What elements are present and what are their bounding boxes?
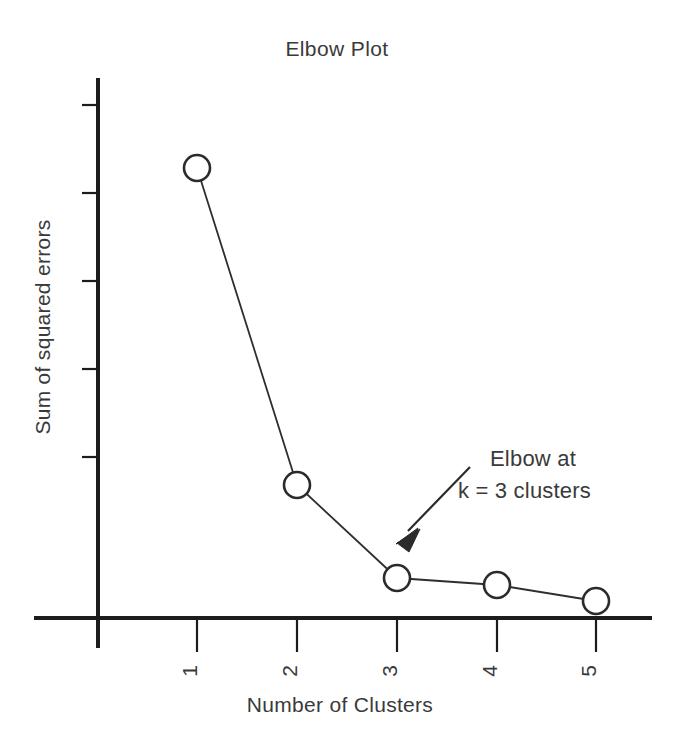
x-tick-label-4: 4 — [478, 665, 501, 677]
elbow-annotation-text: Elbow at k = 3 clusters — [458, 446, 591, 503]
chart-canvas: Elbow Plot 1 2 3 4 5 — [0, 0, 674, 739]
data-point-k2 — [284, 472, 310, 498]
arrow-head-fill-icon — [397, 529, 420, 552]
x-axis-tick-labels: 1 2 3 4 5 — [178, 665, 600, 677]
data-point-markers — [184, 155, 609, 614]
annotation-line-2: k = 3 clusters — [458, 478, 591, 503]
x-tick-label-2: 2 — [278, 665, 301, 677]
annotation-line-1: Elbow at — [490, 446, 576, 471]
elbow-plot-figure: Elbow Plot 1 2 3 4 5 — [0, 0, 674, 739]
data-point-k4 — [484, 572, 510, 598]
data-point-k5 — [583, 588, 609, 614]
x-axis-title: Number of Clusters — [247, 693, 433, 716]
x-tick-label-5: 5 — [577, 665, 600, 677]
data-point-k1 — [184, 155, 210, 181]
data-point-k3 — [384, 565, 410, 591]
y-axis-title: Sum of squared errors — [31, 219, 54, 434]
series-line-sse — [197, 168, 596, 601]
x-axis-ticks — [197, 620, 596, 652]
chart-title: Elbow Plot — [285, 37, 388, 60]
x-tick-label-1: 1 — [178, 665, 201, 677]
x-tick-label-3: 3 — [378, 665, 401, 677]
